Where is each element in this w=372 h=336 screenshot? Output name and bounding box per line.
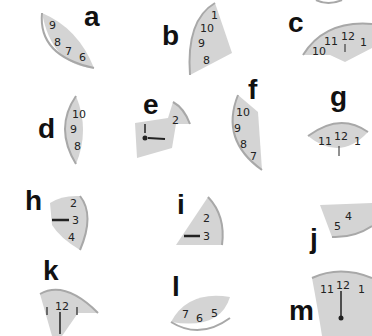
num: 10 (72, 108, 86, 121)
num: 12 (341, 30, 355, 43)
num: 8 (54, 36, 61, 49)
num: 9 (70, 123, 77, 136)
partial-piece-top (316, 0, 342, 3)
num: 12 (334, 130, 348, 143)
num: 2 (203, 212, 210, 225)
label-f: f (248, 74, 258, 105)
label-i: i (177, 189, 185, 220)
piece-h[interactable]: h 2 3 4 (25, 185, 88, 250)
hour-hand (148, 138, 165, 139)
num: 4 (68, 231, 75, 244)
label-h: h (25, 185, 42, 216)
num: 11 (324, 35, 338, 48)
label-e: e (143, 89, 159, 120)
num: 7 (182, 308, 189, 321)
num: 6 (79, 51, 86, 64)
num: 7 (250, 150, 257, 163)
num: 1 (354, 135, 361, 148)
num: 9 (49, 19, 56, 32)
piece-b[interactable]: b 1 10 9 8 (162, 3, 232, 75)
clock-center (143, 136, 148, 141)
num: 1 (358, 283, 365, 296)
piece-e[interactable]: e 2 (135, 89, 190, 158)
piece-g[interactable]: g 11 12 1 (308, 81, 368, 156)
piece-a[interactable]: a 9 8 7 6 (42, 1, 100, 68)
piece-d[interactable]: d 10 9 8 (38, 96, 86, 164)
label-d: d (38, 113, 55, 144)
num: 8 (203, 54, 210, 67)
num: 5 (211, 307, 218, 320)
num: 10 (200, 22, 214, 35)
num: 2 (172, 114, 179, 127)
label-g: g (330, 81, 347, 112)
piece-i[interactable]: i 2 3 (176, 189, 223, 245)
clock-center (339, 316, 344, 321)
num: 5 (334, 220, 341, 233)
num: 1 (211, 9, 218, 22)
num: 4 (345, 210, 352, 223)
label-b: b (162, 20, 179, 51)
piece-c[interactable]: c 10 11 12 1 (288, 7, 372, 62)
num: 12 (336, 279, 350, 292)
num: 1 (360, 36, 367, 49)
piece-k[interactable]: k 12 (40, 255, 98, 336)
num: 11 (320, 283, 334, 296)
num: 2 (70, 197, 77, 210)
num: 9 (198, 37, 205, 50)
piece-m[interactable]: m 11 12 1 (289, 272, 372, 336)
num: 3 (72, 214, 79, 227)
clock-puzzle-canvas: a 9 8 7 6 b 1 10 9 8 c 10 11 12 1 d 10 9… (0, 0, 372, 336)
num: 8 (240, 138, 247, 151)
label-m: m (289, 295, 314, 326)
piece-j[interactable]: j 5 4 (309, 203, 372, 254)
num: 10 (236, 106, 250, 119)
piece-l[interactable]: l 7 6 5 (171, 271, 230, 330)
label-c: c (288, 7, 304, 38)
num: 7 (65, 45, 72, 58)
label-a: a (84, 1, 100, 32)
num: 9 (234, 122, 241, 135)
num: 12 (55, 300, 69, 313)
clock-fragment-k (40, 290, 98, 336)
num: 11 (318, 135, 332, 148)
num: 3 (203, 230, 210, 243)
label-j: j (309, 223, 318, 254)
label-l: l (172, 271, 180, 302)
num: 6 (196, 312, 203, 325)
label-k: k (43, 255, 59, 286)
num: 8 (74, 140, 81, 153)
piece-f[interactable]: f 10 9 8 7 (233, 74, 262, 170)
